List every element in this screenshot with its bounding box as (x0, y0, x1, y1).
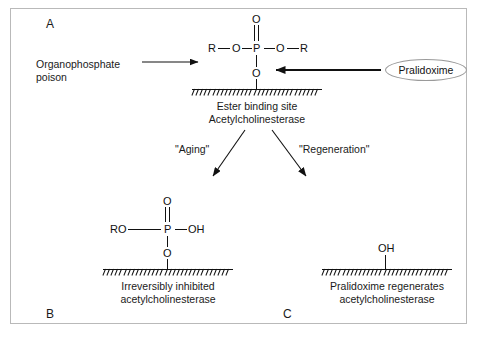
group-oh-b: OH (188, 224, 205, 235)
caption-panel-b-line2: acetylcholinesterase (93, 293, 243, 306)
bond-p-o-right-a (264, 48, 275, 49)
atom-bottom-oxygen-b: O (163, 248, 172, 259)
surface-caption-a-line2: Acetylcholinesterase (192, 113, 322, 126)
figure-canvas: A B C Organophosphate poison O R O P O R… (0, 0, 482, 339)
surface-hatching-a (192, 89, 322, 96)
surface-caption-a: Ester binding site Acetylcholinesterase (192, 100, 322, 125)
group-ro-b: RO (110, 224, 127, 235)
atom-right-r-a: R (300, 43, 308, 54)
panel-label-b: B (46, 308, 54, 320)
enzyme-surface-b (103, 269, 233, 277)
caption-panel-b-line1: Irreversibly inhibited (93, 280, 243, 293)
organophosphate-poison-label: Organophosphate poison (36, 58, 120, 83)
atom-phosphorus-b: P (164, 224, 171, 235)
caption-panel-c-line2: acetylcholinesterase (312, 293, 462, 306)
organophosphate-poison-line1: Organophosphate (36, 58, 120, 71)
panel-label-c: C (283, 308, 292, 320)
organophosphate-poison-line2: poison (36, 71, 120, 84)
atom-left-oxygen-a: O (232, 43, 241, 54)
atom-top-oxygen-a: O (252, 14, 261, 25)
bond-o-p-left-a (242, 48, 252, 49)
atom-right-oxygen-a: O (276, 43, 285, 54)
bond-p-o-down-a (256, 55, 257, 67)
surface-caption-a-line1: Ester binding site (192, 100, 322, 113)
group-oh-c: OH (378, 243, 395, 254)
atom-bottom-oxygen-a: O (252, 68, 261, 79)
pralidoxime-callout[interactable]: Pralidoxime (385, 59, 467, 81)
atom-top-oxygen-b: O (163, 196, 172, 207)
caption-panel-c-line1: Pralidoxime regenerates (312, 280, 462, 293)
bond-p-double-o-right-a (258, 25, 259, 41)
enzyme-surface-a (192, 89, 322, 97)
bond-r-o-left-a (218, 48, 230, 49)
bond-p-oh-b (175, 229, 187, 230)
bond-oh-surface-c (385, 255, 386, 269)
surface-hatching-c (322, 269, 452, 276)
branch-label-aging: "Aging" (175, 144, 209, 155)
bond-p-double-o-left-b (165, 207, 166, 222)
panel-label-a: A (46, 18, 54, 30)
atom-phosphorus-a: P (253, 43, 260, 54)
atom-left-r-a: R (208, 43, 216, 54)
pralidoxime-label: Pralidoxime (399, 64, 454, 76)
bond-p-o-down-b (167, 236, 168, 247)
bond-p-double-o-left-a (254, 25, 255, 41)
surface-hatching-b (103, 269, 233, 276)
caption-panel-c: Pralidoxime regenerates acetylcholineste… (312, 280, 462, 305)
bond-p-double-o-right-b (169, 207, 170, 222)
bond-o-r-right-a (287, 48, 299, 49)
branch-label-regeneration: "Regeneration" (299, 144, 370, 155)
enzyme-surface-c (322, 269, 452, 277)
caption-panel-b: Irreversibly inhibited acetylcholinester… (93, 280, 243, 305)
bond-ro-p-b (128, 229, 161, 230)
